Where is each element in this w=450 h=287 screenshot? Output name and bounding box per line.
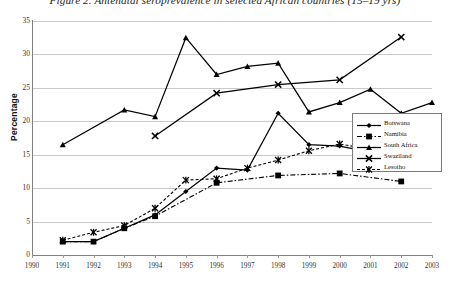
data-point-square xyxy=(337,171,343,177)
legend: BotswanaNamibiaSouth AfricaSwazilandLeso… xyxy=(352,113,442,172)
data-point-asterisk xyxy=(306,147,312,154)
data-point-cross xyxy=(398,34,404,40)
data-point-triangle xyxy=(337,100,343,106)
legend-marker-square-icon xyxy=(356,128,382,139)
data-point-triangle xyxy=(183,35,189,41)
legend-item-namibia[interactable]: Namibia xyxy=(356,128,439,139)
data-point-asterisk xyxy=(275,157,281,164)
legend-label: Namibia xyxy=(382,130,407,137)
legend-marker-cross-icon xyxy=(356,150,382,161)
legend-label: South Africa xyxy=(382,141,418,148)
data-point-cross xyxy=(152,133,158,139)
legend-label: Swaziland xyxy=(382,152,411,159)
data-point-square xyxy=(275,173,281,179)
data-point-asterisk xyxy=(91,229,97,236)
data-point-triangle xyxy=(367,86,373,92)
legend-item-swaziland[interactable]: Swaziland xyxy=(356,150,439,161)
data-point-square xyxy=(398,179,404,185)
data-point-asterisk xyxy=(214,175,220,182)
figure-container: Figure 2. Antenatal seroprevalence in se… xyxy=(0,0,450,287)
legend-marker-triangle-icon xyxy=(356,139,382,150)
data-point-triangle xyxy=(121,107,127,113)
legend-marker-asterisk-icon xyxy=(356,161,382,172)
legend-item-lesotho[interactable]: Lesotho xyxy=(356,161,439,172)
data-point-asterisk xyxy=(366,166,372,173)
legend-marker-diamond-icon xyxy=(356,117,382,128)
legend-label: Botswana xyxy=(382,119,410,126)
data-point-triangle xyxy=(60,142,66,148)
legend-item-botswana[interactable]: Botswana xyxy=(356,117,439,128)
data-point-triangle xyxy=(429,100,435,106)
legend-item-south-africa[interactable]: South Africa xyxy=(356,139,439,150)
data-point-asterisk xyxy=(152,205,158,212)
data-point-square xyxy=(91,239,97,245)
data-point-square xyxy=(152,213,158,219)
legend-label: Lesotho xyxy=(382,163,405,170)
series-line xyxy=(63,173,401,241)
